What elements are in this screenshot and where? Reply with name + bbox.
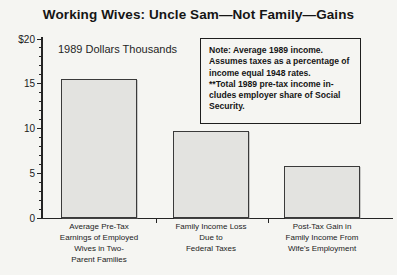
y-major-tick <box>37 39 42 40</box>
y-tick-label: 10 <box>5 123 35 134</box>
category-label-line: Parent Families <box>34 254 164 265</box>
category-label: Post-Tax Gain inFamily Income FromWife's… <box>257 221 387 254</box>
y-tick-label: 0 <box>5 213 35 224</box>
bar <box>173 131 249 218</box>
y-minor-tick <box>39 146 42 147</box>
y-minor-tick <box>39 65 42 66</box>
y-minor-tick <box>39 110 42 111</box>
note-line: Note: Average 1989 income. <box>209 45 354 56</box>
category-label-line: Post-Tax Gain in <box>257 221 387 232</box>
y-tick-label: 5 <box>5 168 35 179</box>
category-label-line: Wives in Two- <box>34 243 164 254</box>
y-minor-tick <box>39 56 42 57</box>
y-minor-tick <box>39 47 42 48</box>
chart-title: Working Wives: Uncle Sam—Not Family—Gain… <box>0 7 397 22</box>
y-major-tick <box>37 83 42 84</box>
note-line: **Total 1989 pre-tax income in- <box>209 79 354 90</box>
bar <box>284 166 360 218</box>
y-major-tick <box>37 128 42 129</box>
note-box: Note: Average 1989 income. Assumes taxes… <box>200 38 361 124</box>
note-line: Security. <box>209 101 354 112</box>
y-tick-label: 15 <box>5 78 35 89</box>
y-minor-tick <box>39 191 42 192</box>
y-minor-tick <box>39 164 42 165</box>
y-minor-tick <box>39 119 42 120</box>
y-minor-tick <box>39 137 42 138</box>
units-annotation: 1989 Dollars Thousands <box>58 43 177 55</box>
y-minor-tick <box>39 200 42 201</box>
y-minor-tick <box>39 155 42 156</box>
category-label-line: Wife's Employment <box>257 243 387 254</box>
note-line: cludes employer share of Social <box>209 90 354 101</box>
note-line: income equal 1948 rates. <box>209 68 354 79</box>
y-minor-tick <box>39 209 42 210</box>
y-minor-tick <box>39 182 42 183</box>
y-minor-tick <box>39 92 42 93</box>
y-minor-tick <box>39 74 42 75</box>
category-label-line: Earnings of Employed <box>34 232 164 243</box>
y-major-tick <box>37 173 42 174</box>
category-label-line: Average Pre-Tax <box>34 221 164 232</box>
note-line: Assumes taxes as a percentage of <box>209 56 354 67</box>
bar <box>61 79 137 218</box>
category-label: Average Pre-TaxEarnings of EmployedWives… <box>34 221 164 265</box>
chart-figure: Working Wives: Uncle Sam—Not Family—Gain… <box>0 0 397 275</box>
y-major-tick <box>37 218 42 219</box>
y-minor-tick <box>39 101 42 102</box>
y-tick-label: $20 <box>5 34 35 45</box>
category-label-line: Family Income From <box>257 232 387 243</box>
